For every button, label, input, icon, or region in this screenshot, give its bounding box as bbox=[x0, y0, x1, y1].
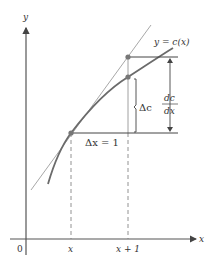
delta-x-label: Δx = 1 bbox=[85, 137, 119, 148]
dc-label: dc bbox=[164, 93, 175, 103]
marginal-cost-diagram: y x 0 x x + 1 dc dx Δc Δx = 1 y = c(x) bbox=[0, 0, 214, 265]
tangent-point-at-x-plus-1 bbox=[125, 54, 130, 59]
curve-point-at-x-plus-1 bbox=[125, 74, 130, 79]
delta-c-label: Δc bbox=[139, 102, 152, 113]
tick-x: x bbox=[68, 244, 73, 254]
delta-c-bracket bbox=[134, 79, 136, 132]
cost-curve bbox=[48, 48, 173, 184]
curve-label: y = c(x) bbox=[153, 37, 190, 47]
origin-label: 0 bbox=[17, 244, 23, 254]
y-axis-label: y bbox=[22, 12, 29, 22]
tick-x-plus-1: x + 1 bbox=[116, 244, 140, 254]
dx-label: dx bbox=[164, 106, 175, 116]
x-axis-label: x bbox=[199, 234, 204, 244]
tangent-line bbox=[31, 25, 151, 190]
point-at-x bbox=[68, 130, 73, 135]
